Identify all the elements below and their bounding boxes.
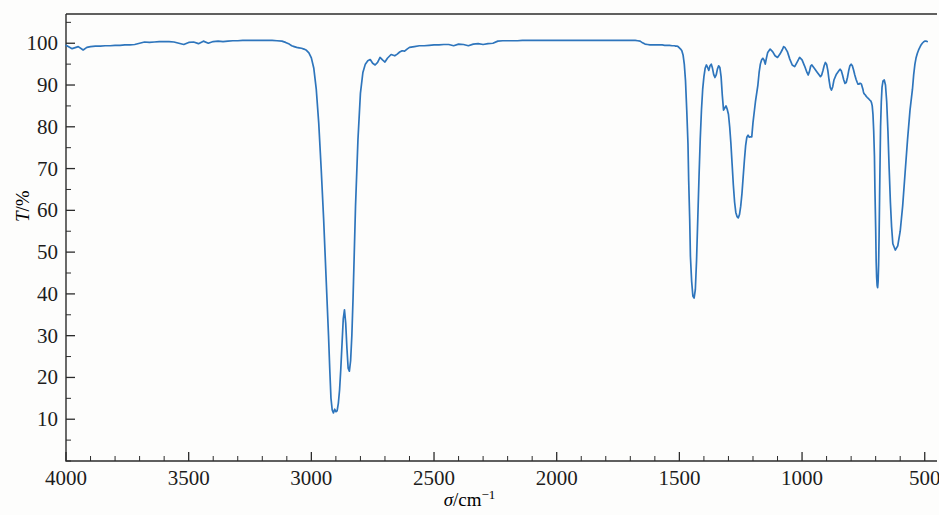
- ir-spectrum-figure: 4000350030002500200015001000500 10203040…: [0, 0, 939, 515]
- y-tick-label: 30: [37, 324, 58, 348]
- y-tick-label: 10: [37, 407, 58, 431]
- x-axis-title: σ/cm−1: [0, 487, 939, 511]
- transmittance-curve: [66, 40, 927, 413]
- y-axis-tick-labels: 102030405060708090100: [27, 31, 59, 431]
- plot-frame: [66, 14, 937, 461]
- y-tick-label: 60: [37, 198, 58, 222]
- x-axis-title-exponent: −1: [482, 487, 496, 502]
- y-axis-title-symbol: T: [12, 211, 33, 222]
- spectrum-plot: 4000350030002500200015001000500 10203040…: [0, 0, 939, 515]
- y-tick-label: 50: [37, 240, 58, 264]
- y-tick-label: 80: [37, 115, 58, 139]
- y-tick-label: 20: [37, 365, 58, 389]
- y-tick-label: 100: [27, 31, 59, 55]
- y-axis-title: T/%: [8, 196, 38, 218]
- y-tick-label: 90: [37, 73, 58, 97]
- x-axis-title-units: /cm: [453, 489, 482, 510]
- spectrum-curve-group: [66, 40, 927, 413]
- x-axis-title-symbol: σ: [444, 489, 453, 510]
- y-axis-title-units: /%: [12, 190, 33, 211]
- y-tick-label: 70: [37, 157, 58, 181]
- axis-ticks: [66, 22, 925, 461]
- y-tick-label: 40: [37, 282, 58, 306]
